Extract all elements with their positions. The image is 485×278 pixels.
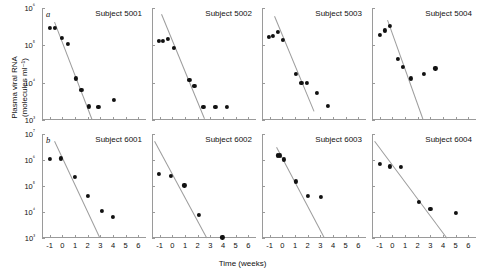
- y-tick-label: 10⁷: [25, 129, 35, 140]
- x-tick-mark: [346, 117, 347, 120]
- x-tick-label: 5: [124, 241, 128, 250]
- subject-panel: Subject 5003: [262, 8, 366, 120]
- panel-title: Subject 5003: [315, 9, 362, 18]
- x-tick-label: 3: [208, 241, 212, 250]
- x-tick-mark: [210, 117, 211, 120]
- subject-panel: aSubject 5001: [42, 8, 146, 120]
- y-tick-label: 10⁶: [24, 155, 35, 166]
- x-tick-label: 2: [86, 241, 90, 250]
- x-tick-mark: [308, 117, 309, 120]
- x-tick-label: 5: [344, 241, 348, 250]
- y-tick-mark: [152, 134, 155, 135]
- x-tick-mark: [358, 117, 359, 120]
- x-tick-label: 1: [73, 241, 77, 250]
- y-tick-label: 10⁶: [24, 3, 35, 14]
- x-tick-mark: [62, 117, 63, 120]
- x-tick-label: 4: [331, 241, 335, 250]
- x-tick-label: 3: [98, 241, 102, 250]
- y-tick-mark: [372, 83, 375, 84]
- y-tick-mark: [372, 134, 375, 135]
- x-tick-label: 2: [416, 241, 420, 250]
- x-tick-label: -1: [266, 241, 273, 250]
- x-tick-mark: [236, 117, 237, 120]
- x-tick-label: 4: [221, 241, 225, 250]
- x-tick-labels: -10123456: [42, 238, 146, 252]
- x-tick-mark: [405, 117, 406, 120]
- x-tick-mark: [100, 117, 101, 120]
- y-tick-mark: [152, 45, 155, 46]
- y-tick-mark: [152, 83, 155, 84]
- y-tick-mark: [152, 120, 155, 121]
- y-tick-labels: 10³10⁴10⁵10⁶10⁷: [0, 134, 40, 238]
- subject-panel: -10123456Subject 6004: [372, 134, 476, 238]
- panel-axes: [152, 134, 256, 238]
- x-tick-mark: [392, 117, 393, 120]
- panel-axes: [42, 8, 146, 120]
- y-tick-mark: [372, 160, 375, 161]
- x-tick-label: 3: [318, 241, 322, 250]
- x-tick-mark: [248, 117, 249, 120]
- y-tick-labels: 10³10⁴10⁵10⁶: [0, 8, 40, 120]
- x-tick-label: 4: [111, 241, 115, 250]
- y-tick-label: 10³: [25, 115, 35, 126]
- x-tick-label: 5: [234, 241, 238, 250]
- y-tick-mark: [42, 83, 45, 84]
- x-tick-mark: [88, 117, 89, 120]
- y-tick-label: 10⁴: [24, 77, 35, 88]
- y-tick-mark: [262, 120, 265, 121]
- panel-letter: b: [46, 135, 50, 145]
- x-tick-mark: [75, 117, 76, 120]
- y-tick-mark: [42, 212, 45, 213]
- y-tick-mark: [262, 8, 265, 9]
- x-tick-mark: [418, 117, 419, 120]
- y-tick-mark: [42, 160, 45, 161]
- panel-axes: [372, 134, 476, 238]
- x-tick-label: 5: [454, 241, 458, 250]
- y-tick-label: 10⁵: [24, 40, 35, 51]
- x-tick-mark: [113, 117, 114, 120]
- y-tick-mark: [42, 8, 45, 9]
- x-tick-mark: [468, 117, 469, 120]
- x-tick-label: 6: [136, 241, 140, 250]
- subject-panel: -10123456bSubject 6001: [42, 134, 146, 238]
- x-tick-mark: [138, 117, 139, 120]
- y-tick-label: 10⁴: [24, 207, 35, 218]
- y-tick-mark: [262, 186, 265, 187]
- x-tick-mark: [185, 117, 186, 120]
- x-tick-labels: -10123456: [262, 238, 366, 252]
- y-tick-mark: [262, 45, 265, 46]
- subject-panel: Subject 5002: [152, 8, 256, 120]
- x-tick-mark: [160, 117, 161, 120]
- x-tick-labels: -10123456: [372, 238, 476, 252]
- x-tick-label: 6: [356, 241, 360, 250]
- x-tick-mark: [380, 117, 381, 120]
- x-tick-label: 1: [293, 241, 297, 250]
- y-tick-mark: [152, 160, 155, 161]
- x-tick-mark: [443, 117, 444, 120]
- x-tick-mark: [282, 117, 283, 120]
- subject-panel: -10123456Subject 6003: [262, 134, 366, 238]
- x-tick-label: 6: [466, 241, 470, 250]
- panel-row-b: 10³10⁴10⁵10⁶10⁷-10123456bSubject 6001-10…: [0, 134, 485, 238]
- x-tick-label: 1: [183, 241, 187, 250]
- y-tick-mark: [262, 134, 265, 135]
- x-tick-mark: [320, 117, 321, 120]
- y-tick-mark: [372, 120, 375, 121]
- y-tick-mark: [372, 45, 375, 46]
- x-tick-label: -1: [156, 241, 163, 250]
- panel-title: Subject 6001: [95, 135, 142, 144]
- y-tick-label: 10⁵: [24, 181, 35, 192]
- x-tick-label: -1: [46, 241, 53, 250]
- x-tick-mark: [126, 117, 127, 120]
- x-tick-mark: [172, 117, 173, 120]
- panel-title: Subject 6003: [315, 135, 362, 144]
- y-tick-mark: [262, 212, 265, 213]
- y-tick-mark: [42, 134, 45, 135]
- y-tick-mark: [42, 120, 45, 121]
- x-tick-label: 0: [170, 241, 174, 250]
- x-tick-label: 2: [196, 241, 200, 250]
- y-tick-mark: [372, 186, 375, 187]
- x-tick-label: 0: [390, 241, 394, 250]
- panel-title: Subject 5002: [205, 9, 252, 18]
- x-tick-mark: [198, 117, 199, 120]
